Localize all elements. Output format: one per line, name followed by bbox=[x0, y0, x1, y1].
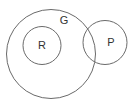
set-g-label: G bbox=[60, 14, 69, 26]
set-r-label: R bbox=[38, 39, 46, 51]
venn-diagram: G R P bbox=[0, 0, 132, 105]
set-p-label: P bbox=[107, 36, 114, 48]
set-p-circle bbox=[83, 21, 127, 65]
set-g-circle bbox=[7, 10, 96, 99]
